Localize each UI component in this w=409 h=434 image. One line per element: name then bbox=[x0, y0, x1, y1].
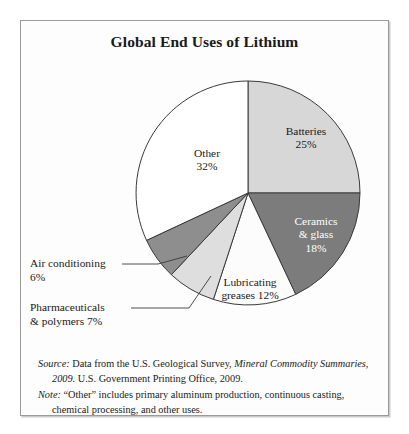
source-text-2: 2009. bbox=[52, 373, 75, 384]
figure-panel: Global End Uses of Lithium Other 32 bbox=[20, 20, 389, 416]
footnotes: Source: Data from the U.S. Geological Su… bbox=[38, 357, 375, 419]
source-label: Source: bbox=[38, 358, 70, 369]
note-label: Note: bbox=[38, 389, 61, 400]
source-note: Source: Data from the U.S. Geological Su… bbox=[38, 357, 375, 386]
callout-air-conditioning-line1: Air conditioning bbox=[30, 257, 106, 271]
note-text-1: “Other” includes primary aluminum produc… bbox=[61, 389, 344, 400]
other-note: Note: “Other” includes primary aluminum … bbox=[38, 388, 375, 417]
callout-pharmaceuticals-line1: Pharmaceuticals bbox=[30, 301, 105, 315]
callout-air-conditioning: Air conditioning 6% bbox=[30, 257, 106, 285]
source-text-1: Data from the U.S. Geological Survey, bbox=[70, 358, 235, 369]
pie-slice-batteries[interactable] bbox=[248, 81, 360, 193]
pie-chart: Other 32% Batteries 25% Ceramics & glass… bbox=[21, 21, 390, 351]
callout-air-conditioning-line2: 6% bbox=[30, 271, 106, 285]
callout-pharmaceuticals-line2: & polymers 7% bbox=[30, 315, 105, 329]
callout-pharmaceuticals-polymers: Pharmaceuticals & polymers 7% bbox=[30, 301, 105, 329]
source-italic-title: Mineral Commodity Summaries, bbox=[234, 358, 368, 369]
source-text-3: U.S. Government Printing Office, 2009. bbox=[75, 373, 243, 384]
note-text-2: chemical processing, and other uses. bbox=[52, 404, 202, 415]
